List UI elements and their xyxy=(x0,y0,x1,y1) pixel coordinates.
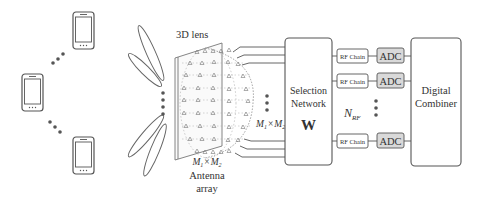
selection-network-label-line1: Selection xyxy=(290,85,327,96)
rf-chain-row-1: RF Chain ADC xyxy=(332,48,411,63)
antenna-array-dims: M1×M2 xyxy=(191,157,221,168)
adc-label: ADC xyxy=(379,136,401,147)
rf-chain-label: RF Chain xyxy=(340,78,366,85)
user-ellipsis-lower-icon xyxy=(48,120,62,134)
user-phone-top xyxy=(73,12,94,49)
feed-lines-ellipsis-icon xyxy=(265,94,269,112)
selection-network-label-line2: Network xyxy=(291,98,326,109)
user-ellipsis-upper-icon xyxy=(51,52,65,65)
user-phone-bottom xyxy=(73,137,94,174)
nrf-label: NRF xyxy=(343,106,361,122)
user-phone-middle xyxy=(22,74,43,111)
lens-mimo-diagram: 3D lens M1×M2 Antenna array xyxy=(0,0,477,203)
antenna-array-label-line1: Antenna xyxy=(189,170,225,181)
digital-combiner-block: Digital Combiner xyxy=(411,38,461,166)
digital-combiner-label-line2: Combiner xyxy=(415,98,457,109)
selection-network-block: Selection Network W xyxy=(285,38,332,165)
adc-label: ADC xyxy=(379,51,401,62)
beam-ellipsis-icon xyxy=(161,91,165,116)
rf-chain-row-3: RF Chain ADC xyxy=(332,133,411,148)
rf-chain-row-2: RF Chain ADC xyxy=(332,73,411,88)
antenna-array-label-line2: array xyxy=(196,183,218,194)
digital-combiner-label-line1: Digital xyxy=(421,85,450,96)
lens-label: 3D lens xyxy=(176,29,208,40)
rf-chain-ellipsis-icon xyxy=(374,99,378,117)
adc-label: ADC xyxy=(379,76,401,87)
feed-lines xyxy=(233,47,285,157)
feed-lines-dims: M1×M2 xyxy=(255,119,285,130)
rf-chain-label: RF Chain xyxy=(340,53,366,60)
rf-chain-label: RF Chain xyxy=(340,138,366,145)
selection-matrix-symbol: W xyxy=(301,117,316,133)
